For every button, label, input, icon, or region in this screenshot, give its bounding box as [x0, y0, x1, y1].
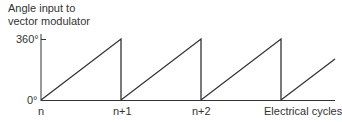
sawtooth-line — [41, 39, 335, 100]
sawtooth-plot — [0, 0, 342, 122]
